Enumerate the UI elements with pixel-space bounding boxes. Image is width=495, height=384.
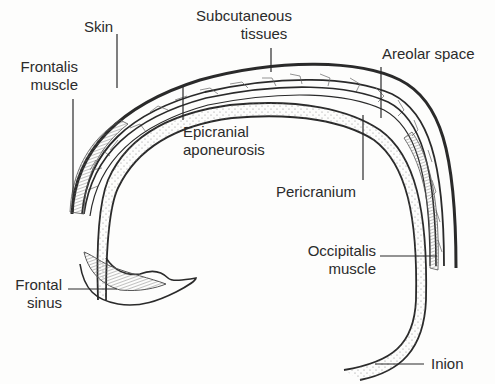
subcutaneous-cells [88,74,442,252]
label-skin: Skin [84,18,113,36]
aponeurosis-inner [90,95,430,266]
label-subcutaneous-tissues: Subcutaneous tissues [192,7,296,43]
label-frontalis-muscle: Frontalis muscle [8,58,78,94]
scalp-layers-diagram: Skin Subcutaneous tissues Areolar space … [0,0,495,384]
label-pericranium: Pericranium [276,183,356,201]
label-frontal-sinus: Frontal sinus [6,276,62,312]
label-epicranial-aponeurosis: Epicranial aponeurosis [183,123,265,159]
label-inion: Inion [431,355,464,373]
label-occipitalis-muscle: Occipitalis muscle [296,242,376,278]
label-areolar-space: Areolar space [382,45,475,63]
